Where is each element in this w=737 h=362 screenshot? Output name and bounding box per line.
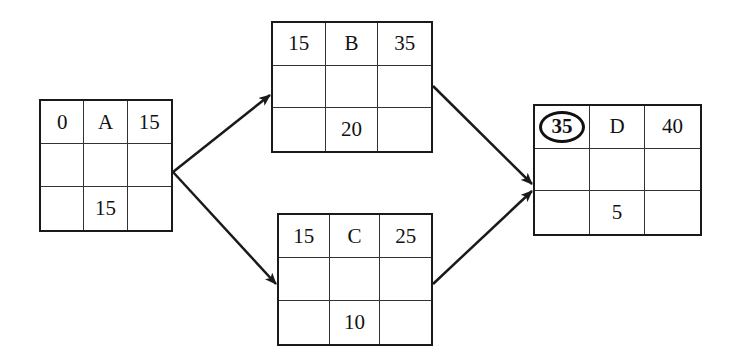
node-b-es: 15 [273, 23, 326, 66]
node-b-name: B [326, 23, 379, 66]
node-a-duration: 15 [84, 187, 127, 230]
node-c-empty [330, 258, 381, 301]
node-b: 15 B 35 20 [271, 21, 433, 153]
node-b-empty [378, 66, 431, 109]
node-d-empty [645, 191, 700, 234]
node-d-empty [535, 191, 590, 234]
node-a-empty [84, 144, 127, 187]
node-d-es-cell: 35 [535, 106, 590, 149]
node-c-es: 15 [279, 215, 330, 258]
node-d-duration: 5 [590, 191, 645, 234]
node-b-empty [378, 108, 431, 151]
node-c-name: C [330, 215, 381, 258]
node-a-empty [128, 187, 171, 230]
node-d-es: 35 [552, 114, 573, 139]
node-a: 0 A 15 15 [39, 99, 173, 232]
node-c: 15 C 25 10 [277, 213, 433, 346]
node-c-empty [279, 258, 330, 301]
node-d-ef: 40 [645, 106, 700, 149]
edge-c-d [433, 191, 532, 284]
node-d-empty [590, 149, 645, 192]
node-c-duration: 10 [330, 301, 381, 344]
edge-a-b [173, 95, 270, 172]
node-a-empty [41, 144, 84, 187]
node-c-empty [380, 301, 431, 344]
edge-a-c [173, 172, 276, 284]
node-d: 35 D 40 5 [533, 104, 702, 236]
node-c-empty [380, 258, 431, 301]
node-b-duration: 20 [326, 108, 379, 151]
node-b-empty [273, 108, 326, 151]
node-a-es: 0 [41, 101, 84, 144]
edge-b-d [433, 86, 532, 184]
node-d-empty [535, 149, 590, 192]
node-d-empty [645, 149, 700, 192]
node-a-name: A [84, 101, 127, 144]
node-c-ef: 25 [380, 215, 431, 258]
node-b-ef: 35 [378, 23, 431, 66]
node-d-name: D [590, 106, 645, 149]
node-a-empty [128, 144, 171, 187]
node-b-empty [273, 66, 326, 109]
node-a-ef: 15 [128, 101, 171, 144]
node-c-empty [279, 301, 330, 344]
node-a-empty [41, 187, 84, 230]
node-b-empty [326, 66, 379, 109]
